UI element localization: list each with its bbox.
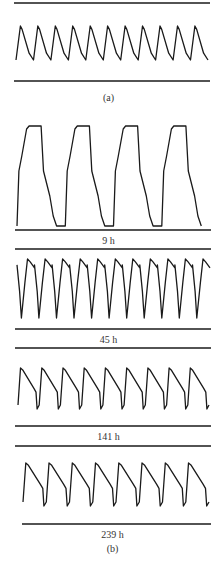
recording-2-trace (18, 368, 209, 409)
time-label-45h: 45 h (0, 334, 217, 346)
time-label-9h: 9 h (0, 235, 217, 247)
figure-canvas (0, 0, 217, 563)
recording-0-trace (17, 126, 201, 226)
panel-a-trace (16, 26, 208, 60)
panel-b-label: (b) (4, 543, 217, 555)
recording-3-trace (23, 463, 209, 506)
time-label-141h: 141 h (0, 431, 217, 443)
recording-1-trace (17, 259, 210, 318)
time-label-239h: 239 h (4, 529, 217, 541)
panel-a-label: (a) (0, 92, 217, 104)
